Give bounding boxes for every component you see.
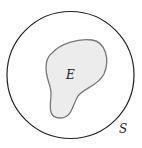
event-label: E (65, 68, 75, 82)
sample-space-label: S (119, 122, 127, 136)
venn-diagram: E S (0, 0, 142, 148)
